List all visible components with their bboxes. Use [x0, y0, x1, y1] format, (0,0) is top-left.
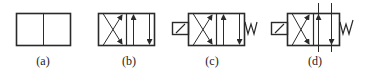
- figure-label-c: (c): [205, 54, 218, 69]
- figure-b-valve: [99, 14, 155, 46]
- solenoid-actuator-icon: [173, 23, 189, 35]
- spring-icon: [245, 22, 257, 34]
- figure-c-solenoid-valve: [173, 14, 258, 46]
- figure-label-d: (d): [308, 54, 322, 69]
- solenoid-actuator-icon: [272, 23, 288, 35]
- figure-d-solenoid-valve-connected: [272, 3, 354, 52]
- figure-label-b: (b): [122, 54, 136, 69]
- spring-icon: [340, 20, 353, 34]
- figure-label-a: (a): [36, 54, 49, 69]
- figure-a-valve-body: [17, 14, 71, 46]
